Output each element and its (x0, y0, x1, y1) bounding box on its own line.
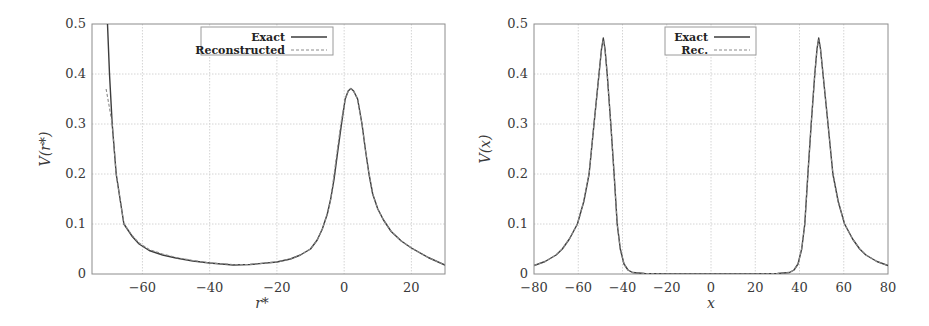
y-tick-label: 0.5 (507, 16, 528, 31)
y-tick-label: 0.1 (507, 216, 528, 231)
legend-label: Rec. (681, 44, 708, 57)
legend: ExactReconstructed (195, 27, 333, 57)
y-tick-label: 0.1 (65, 216, 86, 231)
y-axis-label: V(x) (477, 135, 493, 164)
x-axis-ticks: −60−40−20020 (129, 280, 420, 295)
x-tick-label: −40 (609, 280, 636, 295)
y-tick-label: 0.5 (65, 16, 86, 31)
x-tick-label: 0 (340, 280, 348, 295)
x-tick-label: −60 (565, 280, 592, 295)
x-tick-label: 60 (835, 280, 852, 295)
series-group (106, 24, 445, 265)
legend-label: Exact (251, 31, 286, 44)
y-tick-label: 0 (520, 266, 528, 281)
y-tick-label: 0 (78, 266, 86, 281)
x-tick-label: −60 (129, 280, 156, 295)
y-axis-ticks: 00.10.20.30.40.5 (65, 16, 86, 281)
x-tick-label: −20 (653, 280, 680, 295)
y-tick-label: 0.3 (65, 116, 86, 131)
left-chart-vr-star: −60−40−2002000.10.20.30.40.5r*V(r*)Exact… (37, 16, 445, 311)
x-axis-label: r* (255, 295, 269, 311)
y-axis-label: V(r*) (37, 132, 53, 167)
x-tick-label: −40 (196, 280, 223, 295)
y-tick-label: 0.4 (507, 66, 528, 81)
y-tick-label: 0.3 (507, 116, 528, 131)
y-axis-ticks: 00.10.20.30.40.5 (507, 16, 528, 281)
x-axis-ticks: −80−60−40−20020406080 (520, 280, 896, 295)
figure: −60−40−2002000.10.20.30.40.5r*V(r*)Exact… (0, 0, 929, 326)
x-tick-label: 20 (747, 280, 764, 295)
x-tick-label: 40 (791, 280, 808, 295)
x-tick-label: 0 (707, 280, 715, 295)
right-chart-vx: −80−60−40−2002040608000.10.20.30.40.5xV(… (477, 16, 896, 311)
grid (534, 24, 888, 274)
legend: ExactRec. (665, 27, 756, 57)
plot-frame (92, 24, 445, 274)
x-tick-label: −20 (263, 280, 290, 295)
x-tick-label: −80 (520, 280, 547, 295)
y-tick-label: 0.2 (65, 166, 86, 181)
x-tick-label: 20 (403, 280, 420, 295)
legend-label: Exact (674, 31, 709, 44)
y-tick-label: 0.4 (65, 66, 86, 81)
x-axis-label: x (707, 295, 715, 311)
legend-label: Reconstructed (195, 44, 285, 57)
reconstructed-curve (106, 89, 445, 266)
y-tick-label: 0.2 (507, 166, 528, 181)
exact-curve (108, 24, 446, 265)
grid (92, 24, 445, 274)
x-tick-label: 80 (880, 280, 897, 295)
